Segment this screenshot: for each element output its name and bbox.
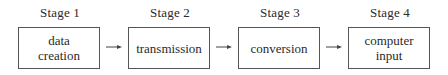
right-arrow-icon <box>215 42 233 52</box>
stage-1-label: Stage 1 <box>18 5 102 21</box>
stage-3-box: conversion <box>238 27 320 69</box>
stage-3-label: Stage 3 <box>238 5 322 21</box>
stage-1-text-line-1: data <box>38 33 80 48</box>
stage-3-text: conversion <box>250 41 307 56</box>
stage-2-label: Stage 2 <box>128 5 212 21</box>
right-arrow-icon <box>325 42 343 52</box>
stage-2-text: transmission <box>136 41 202 56</box>
right-arrow-icon <box>105 42 123 52</box>
stage-4-box: computer input <box>348 27 430 69</box>
stage-4-text-line-2: input <box>364 48 413 63</box>
stage-2-box: transmission <box>128 27 210 69</box>
stage-4-label: Stage 4 <box>348 5 432 21</box>
stage-1-box: data creation <box>18 27 100 69</box>
stage-4-text-line-1: computer <box>364 33 413 48</box>
stage-1-text-line-2: creation <box>38 48 80 63</box>
